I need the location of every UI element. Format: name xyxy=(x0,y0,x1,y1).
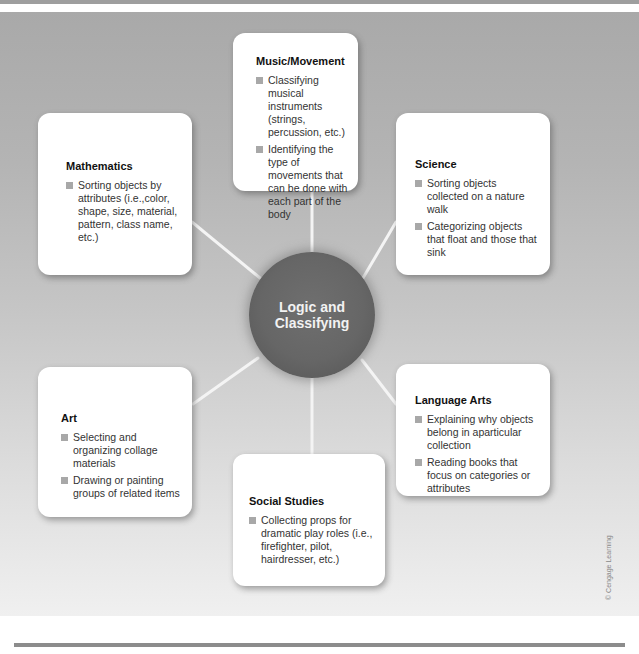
list-item-text: Categorizing objects that float and thos… xyxy=(427,220,537,258)
square-bullet-icon xyxy=(415,459,422,466)
bottom-rule xyxy=(14,643,625,647)
list-item: Sorting objects by attributes (i.e.,colo… xyxy=(66,179,182,244)
card-list: Sorting objects collected on a nature wa… xyxy=(415,177,540,259)
card-list: Selecting and organizing collage materia… xyxy=(61,431,182,500)
list-item-text: Selecting and organizing collage materia… xyxy=(73,431,158,469)
list-item-text: Sorting objects collected on a nature wa… xyxy=(427,177,524,215)
list-item: Categorizing objects that float and thos… xyxy=(415,220,540,259)
card-title: Language Arts xyxy=(415,394,542,407)
list-item: Drawing or painting groups of related it… xyxy=(61,474,182,500)
card-title: Mathematics xyxy=(66,160,182,173)
square-bullet-icon xyxy=(61,477,68,484)
spoke-language-arts xyxy=(362,360,396,404)
central-topic-circle: Logic and Classifying xyxy=(249,252,375,378)
list-item-text: Sorting objects by attributes (i.e.,colo… xyxy=(78,179,177,243)
card-title: Social Studies xyxy=(249,495,377,508)
list-item-text: Identifying the type of movements that c… xyxy=(268,143,347,220)
list-item-text: Explaining why objects belong in apartic… xyxy=(427,413,533,451)
square-bullet-icon xyxy=(256,77,263,84)
square-bullet-icon xyxy=(415,416,422,423)
central-topic-label: Logic and Classifying xyxy=(262,299,362,331)
spoke-mathematics xyxy=(192,222,260,278)
list-item-text: Reading books that focus on categories o… xyxy=(427,456,530,494)
list-item-text: Drawing or painting groups of related it… xyxy=(73,474,180,499)
spoke-science xyxy=(363,222,396,278)
square-bullet-icon xyxy=(66,182,73,189)
list-item: Sorting objects collected on a nature wa… xyxy=(415,177,540,216)
card-list: Classifying musical instruments (strings… xyxy=(256,74,348,221)
square-bullet-icon xyxy=(256,146,263,153)
list-item: Collecting props for dramatic play roles… xyxy=(249,514,377,566)
card-list: Sorting objects by attributes (i.e.,colo… xyxy=(66,179,182,244)
list-item: Explaining why objects belong in apartic… xyxy=(415,413,542,452)
card-title: Art xyxy=(61,412,182,425)
card-social-studies: Social Studies Collecting props for dram… xyxy=(233,454,385,586)
card-list: Explaining why objects belong in apartic… xyxy=(415,413,542,495)
card-title: Music/Movement xyxy=(256,55,348,68)
square-bullet-icon xyxy=(415,180,422,187)
list-item: Identifying the type of movements that c… xyxy=(256,143,348,221)
copyright-credit: © Cengage Learning xyxy=(605,500,617,600)
list-item: Reading books that focus on categories o… xyxy=(415,456,542,495)
list-item: Selecting and organizing collage materia… xyxy=(61,431,182,470)
card-title: Science xyxy=(415,158,540,171)
square-bullet-icon xyxy=(61,434,68,441)
square-bullet-icon xyxy=(415,223,422,230)
list-item-text: Collecting props for dramatic play roles… xyxy=(261,514,372,565)
card-science: Science Sorting objects collected on a n… xyxy=(396,113,550,275)
list-item-text: Classifying musical instruments (strings… xyxy=(268,74,345,138)
central-topic-line-2: Classifying xyxy=(262,315,362,331)
card-mathematics: Mathematics Sorting objects by attribute… xyxy=(38,113,192,275)
square-bullet-icon xyxy=(249,517,256,524)
card-list: Collecting props for dramatic play roles… xyxy=(249,514,377,566)
card-language-arts: Language Arts Explaining why objects bel… xyxy=(396,364,550,496)
card-music-movement: Music/Movement Classifying musical instr… xyxy=(233,33,358,191)
card-art: Art Selecting and organizing collage mat… xyxy=(38,367,192,517)
list-item: Classifying musical instruments (strings… xyxy=(256,74,348,139)
spoke-art xyxy=(193,358,258,404)
central-topic-line-1: Logic and xyxy=(262,299,362,315)
